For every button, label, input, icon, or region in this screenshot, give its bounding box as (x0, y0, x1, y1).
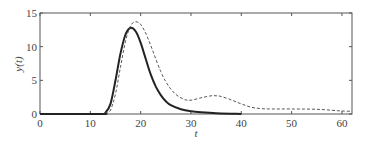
series-dashed-line (105, 22, 352, 114)
line-chart: 0102030405060 051015 t y(t) (0, 0, 366, 145)
y-tick-label: 5 (32, 74, 38, 86)
x-tick-label: 20 (135, 117, 147, 129)
series-solid-line (40, 28, 241, 114)
x-tick-label: 10 (85, 117, 97, 129)
y-tick-label: 0 (32, 108, 38, 120)
x-tick-label: 40 (236, 117, 248, 129)
x-tick-label: 0 (37, 117, 43, 129)
series-layer (40, 22, 352, 114)
y-tick-label: 10 (26, 41, 38, 53)
y-tick-label: 15 (26, 7, 38, 19)
x-axis-label: t (194, 127, 198, 139)
y-axis-ticks: 051015 (26, 7, 352, 120)
y-axis-label: y(t) (12, 56, 25, 73)
x-tick-label: 60 (336, 117, 348, 129)
x-tick-label: 50 (286, 117, 298, 129)
